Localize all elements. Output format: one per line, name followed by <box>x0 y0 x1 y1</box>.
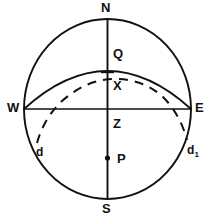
celestial-sphere-diagram: N Q X W E Z P S d d1 <box>0 0 215 220</box>
label-east: E <box>195 101 204 114</box>
label-north: N <box>101 1 111 14</box>
label-d-one-subscript: 1 <box>195 150 199 159</box>
label-west: W <box>7 101 19 114</box>
label-d-one-base: d <box>187 143 195 157</box>
label-x: X <box>113 79 122 92</box>
label-south: S <box>102 202 111 215</box>
label-d: d <box>36 146 44 158</box>
label-d-one: d1 <box>187 144 199 159</box>
point-p-marker <box>105 155 110 160</box>
label-q: Q <box>113 47 123 60</box>
label-p: P <box>117 152 126 165</box>
diagram-canvas <box>0 0 215 220</box>
label-z: Z <box>113 117 121 130</box>
